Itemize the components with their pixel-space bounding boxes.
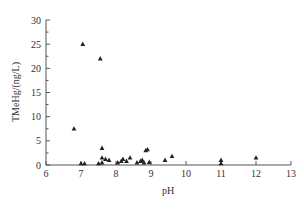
triangle-marker	[163, 158, 168, 162]
y-axis-label: TMeHg/(ng/L)	[10, 62, 22, 122]
y-tick-label: 15	[31, 87, 41, 98]
x-tick-label: 10	[181, 168, 191, 179]
x-tick-label: 7	[79, 168, 84, 179]
scatter-chart: 051015202530 678910111213 pH TMeHg/(ng/L…	[0, 0, 304, 210]
triangle-marker	[219, 158, 224, 162]
x-tick-label: 8	[114, 168, 119, 179]
triangle-marker	[170, 154, 175, 158]
x-axis-label: pH	[162, 185, 174, 196]
y-tick-label: 20	[31, 63, 41, 74]
triangle-marker	[254, 155, 259, 159]
triangle-marker	[107, 158, 112, 162]
y-tick-label: 30	[31, 15, 41, 26]
triangle-marker	[80, 42, 85, 46]
y-tick-label: 0	[36, 160, 41, 171]
x-tick-label: 13	[286, 168, 296, 179]
x-tick-label: 9	[149, 168, 154, 179]
triangle-marker	[82, 161, 87, 165]
y-axis-ticks: 051015202530	[31, 15, 50, 171]
y-tick-label: 10	[31, 111, 41, 122]
x-tick-label: 6	[44, 168, 49, 179]
triangle-marker	[100, 155, 105, 159]
data-points	[72, 42, 259, 166]
triangle-marker	[98, 56, 103, 60]
triangle-marker	[96, 161, 101, 165]
x-tick-label: 11	[216, 168, 226, 179]
y-tick-label: 5	[36, 135, 41, 146]
x-tick-label: 12	[251, 168, 261, 179]
y-tick-label: 25	[31, 39, 41, 50]
triangle-marker	[128, 155, 133, 159]
triangle-marker	[72, 126, 77, 130]
triangle-marker	[100, 145, 105, 149]
